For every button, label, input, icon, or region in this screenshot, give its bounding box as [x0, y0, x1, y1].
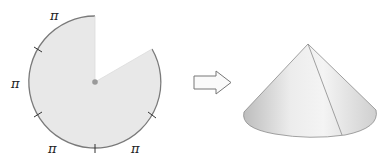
- center-point: [92, 79, 98, 85]
- label-bottom-right: π: [131, 142, 140, 155]
- label-top: π: [50, 9, 59, 22]
- label-bottom-left: π: [48, 142, 57, 155]
- diagram-canvas: [0, 0, 388, 160]
- cone: [244, 44, 377, 137]
- circle-sector: [29, 16, 161, 153]
- right-arrow-icon: [194, 71, 231, 94]
- label-left: π: [11, 77, 20, 90]
